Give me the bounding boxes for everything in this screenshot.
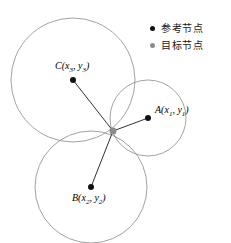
node-dot-C xyxy=(70,77,76,83)
legend-label-target-node: 目标节点 xyxy=(161,40,203,51)
trilateration-figure: 参考节点 目标节点 C(x3, y3) A(x1, y1) B(x2, y2) xyxy=(0,0,231,243)
paren-close: ) xyxy=(102,192,105,203)
node-label-C: C(x3, y3) xyxy=(55,60,89,74)
paren-close: ) xyxy=(86,60,89,71)
radius-line-A-to-target xyxy=(113,118,148,131)
legend-label-reference-node: 参考节点 xyxy=(161,23,203,34)
legend-item-target-node: 目标节点 xyxy=(150,37,228,53)
node-dot-A xyxy=(145,115,151,121)
paren-close: ) xyxy=(185,104,188,115)
node-dot-B xyxy=(88,184,94,190)
radius-lines-group xyxy=(73,80,148,187)
nodes-group xyxy=(70,77,151,190)
node-label-A: A(x1, y1) xyxy=(155,104,189,118)
radius-line-B-to-target xyxy=(91,131,113,187)
filled-circle-icon xyxy=(150,43,155,48)
legend: 参考节点 目标节点 xyxy=(150,20,228,54)
node-label-B: B(x2, y2) xyxy=(72,192,106,206)
filled-circle-icon xyxy=(150,26,155,31)
node-dot-target xyxy=(110,128,117,135)
legend-item-reference-node: 参考节点 xyxy=(150,20,228,36)
radius-line-C-to-target xyxy=(73,80,113,131)
node-letter-C: C xyxy=(55,60,62,71)
